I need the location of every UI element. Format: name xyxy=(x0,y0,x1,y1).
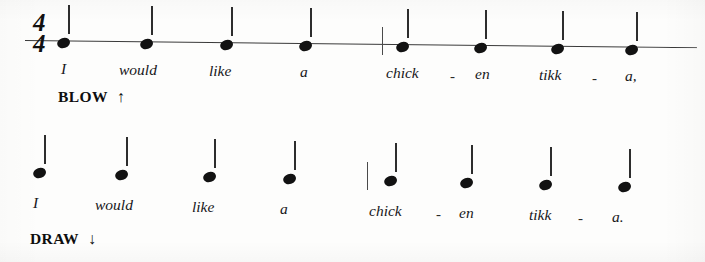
note-stem xyxy=(485,10,487,39)
time-signature-denominator: 4 xyxy=(33,34,45,55)
lyric-syllable: a. xyxy=(612,208,624,226)
lyric-hyphen: - xyxy=(450,68,455,85)
notehead-glyph xyxy=(395,40,410,53)
time-signature: 4 4 xyxy=(33,13,45,54)
lyric-hyphen: - xyxy=(578,210,583,227)
lyric-syllable: tikk xyxy=(529,206,551,224)
notehead-glyph xyxy=(624,43,639,56)
breath-direction-blow: BLOW↑ xyxy=(58,88,125,106)
notehead-glyph xyxy=(282,172,297,185)
note-stem xyxy=(407,9,409,38)
notehead-glyph xyxy=(114,168,129,181)
staff-line xyxy=(25,40,697,48)
lyric-syllable: chick xyxy=(386,64,419,82)
note-stem xyxy=(294,141,296,170)
note-stem xyxy=(550,147,552,176)
lyric-syllable: would xyxy=(95,196,133,214)
breath-direction-draw: DRAW↓ xyxy=(30,230,96,248)
notehead-glyph xyxy=(202,170,217,183)
lyric-syllable: like xyxy=(192,198,214,216)
notehead-glyph xyxy=(550,42,565,55)
note-stem xyxy=(629,149,631,178)
staff-system-draw: I would like a chick en tikk a. - - DRAW… xyxy=(0,130,705,262)
lyric-syllable: like xyxy=(209,62,231,80)
note-stem xyxy=(395,143,397,172)
notehead-glyph xyxy=(32,166,47,179)
notehead-glyph xyxy=(459,176,474,189)
lyric-syllable: would xyxy=(119,61,157,79)
note-stem xyxy=(636,12,638,41)
notehead-glyph xyxy=(383,174,398,187)
note-stem xyxy=(214,139,216,168)
lyric-syllable: en xyxy=(459,204,474,222)
notehead-glyph xyxy=(538,178,553,191)
notehead-glyph xyxy=(139,37,154,50)
note-stem xyxy=(562,11,564,40)
notehead-glyph xyxy=(473,41,488,54)
lyric-syllable: a, xyxy=(625,67,637,85)
note-stem xyxy=(68,5,70,34)
note-stem xyxy=(471,145,473,174)
notehead-glyph xyxy=(617,180,632,193)
note-stem xyxy=(126,137,128,166)
lyric-syllable: en xyxy=(475,65,490,83)
breath-direction-label: DRAW xyxy=(30,230,79,247)
staff-system-blow: 4 4 I would like a chick en tikk a, - - … xyxy=(0,0,705,130)
lyric-hyphen: - xyxy=(436,206,441,223)
lyric-syllable: chick xyxy=(369,202,402,220)
lyric-syllable: tikk xyxy=(539,66,561,84)
notation-page: 4 4 I would like a chick en tikk a, - - … xyxy=(0,0,705,262)
note-stem xyxy=(151,6,153,35)
barline xyxy=(367,162,368,190)
lyric-syllable: I xyxy=(33,194,38,212)
lyric-hyphen: - xyxy=(592,70,597,87)
breath-direction-label: BLOW xyxy=(58,88,108,105)
note-stem xyxy=(231,7,233,36)
arrow-up-icon: ↑ xyxy=(117,88,125,106)
notehead-glyph xyxy=(298,39,313,52)
note-stem xyxy=(44,135,46,164)
note-stem xyxy=(310,8,312,37)
arrow-down-icon: ↓ xyxy=(88,230,96,248)
notehead-glyph xyxy=(56,36,71,49)
lyric-syllable: a xyxy=(280,200,288,218)
barline xyxy=(382,27,383,55)
lyric-syllable: I xyxy=(61,60,66,78)
lyric-syllable: a xyxy=(300,63,308,81)
notehead-glyph xyxy=(219,38,234,51)
